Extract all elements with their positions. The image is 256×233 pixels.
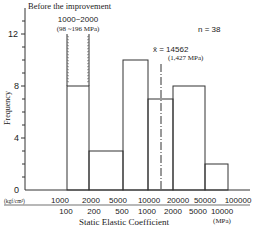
- range-mpa-annotation: (98 ~196 MPa): [57, 25, 100, 33]
- range-annotation: 1000~2000: [58, 15, 99, 24]
- svg-text:5000: 5000: [189, 207, 207, 216]
- svg-text:100: 100: [59, 207, 73, 216]
- histogram-bars: [67, 60, 228, 190]
- svg-text:10000: 10000: [138, 196, 161, 205]
- svg-text:50000: 50000: [194, 196, 217, 205]
- histogram-chart: 0 4 8 12 Frequency Before the improvemen…: [0, 0, 256, 233]
- svg-text:200: 200: [87, 207, 101, 216]
- svg-text:2000: 2000: [164, 207, 182, 216]
- y-tick-label: 4: [14, 133, 19, 143]
- mean-annotation: x̄ = 14562: [153, 45, 189, 54]
- svg-text:2000: 2000: [82, 196, 100, 205]
- mean-mpa-annotation: (1,427 MPa): [168, 54, 204, 62]
- x-ticks-mpa: 100 200 500 1000 2000 5000 10000: [59, 207, 233, 216]
- y-tick-label: 12: [8, 29, 18, 39]
- svg-text:5000: 5000: [109, 196, 127, 205]
- svg-text:10000: 10000: [211, 207, 234, 216]
- n-annotation: n = 38: [198, 25, 221, 34]
- bar-5000-10000: [123, 60, 148, 190]
- y-axis-label: Frequency: [3, 91, 12, 125]
- y-ticks: [21, 21, 25, 177]
- hatched-extension: [67, 34, 89, 86]
- bar-2000-5000: [89, 151, 123, 190]
- svg-text:20000: 20000: [167, 196, 190, 205]
- x-unit-kgf: (kgf/cm²): [4, 198, 25, 205]
- chart-title: Before the improvement: [28, 1, 112, 11]
- svg-text:1000: 1000: [138, 207, 156, 216]
- bar-50000-100000: [205, 164, 228, 190]
- svg-text:1000: 1000: [51, 196, 69, 205]
- y-tick-label: 0: [14, 185, 19, 195]
- bar-1000-2000: [67, 86, 89, 190]
- svg-text:100000: 100000: [225, 196, 252, 205]
- hatch-marks: [67, 36, 89, 82]
- x-unit-mpa: (MPa): [213, 217, 232, 225]
- y-tick-label: 8: [14, 81, 19, 91]
- x-ticks-kgf: 1000 2000 5000 10000 20000 50000 100000: [51, 196, 252, 205]
- svg-text:500: 500: [115, 207, 129, 216]
- bar-20000-50000: [173, 86, 205, 190]
- x-axis-label: Static Elastic Coefficient: [79, 217, 169, 227]
